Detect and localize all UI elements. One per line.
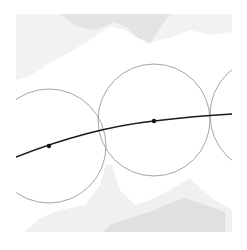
main-curve xyxy=(16,114,232,157)
circles xyxy=(0,57,247,203)
geometric-figure xyxy=(0,0,247,250)
circle-1 xyxy=(0,89,106,203)
curve xyxy=(16,114,232,157)
point-2 xyxy=(152,119,156,123)
diagram-canvas xyxy=(0,0,247,250)
point-1 xyxy=(47,144,51,148)
